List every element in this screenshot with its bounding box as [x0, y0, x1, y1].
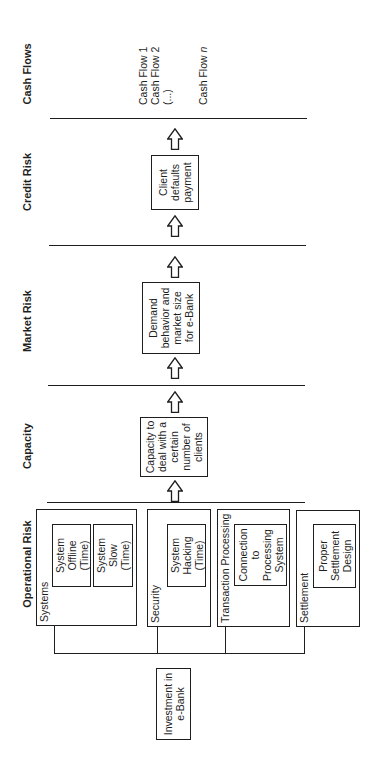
group-label: Systems: [38, 582, 50, 622]
node-line: Demand: [147, 298, 159, 338]
connector-security: [157, 626, 158, 654]
node-line: for e-Bank: [183, 294, 195, 342]
arrow-right-icon: [167, 480, 183, 502]
node-line: (Time): [78, 541, 90, 571]
divider-credit-cashflows: [50, 118, 307, 119]
divider-market-credit: [49, 245, 306, 246]
header-operational-risk: Operational Risk: [21, 520, 34, 607]
cash-flow-item: Cash Flow 1: [137, 47, 149, 105]
cash-flow-item: (...): [161, 47, 173, 105]
connector-systems: [54, 626, 55, 654]
group-settlement: Settlement Proper Settlement Design: [296, 510, 360, 627]
cash-flow-item-last: Cash Flow n: [197, 47, 209, 105]
node-line: e-Bank: [174, 687, 186, 720]
node-line: certain: [168, 431, 180, 463]
node-line: Client: [157, 169, 169, 196]
node-line: payment: [181, 162, 193, 202]
connector-settlement: [304, 626, 305, 654]
node-line: clients: [192, 432, 204, 462]
investment-node: Investment in e-Bank: [156, 668, 191, 740]
node-line: System: [54, 538, 66, 573]
group-label: Security: [149, 585, 161, 623]
node-line: Capacity to: [144, 421, 156, 474]
node-line: System: [169, 538, 181, 573]
header-capacity: Capacity: [21, 423, 34, 469]
node-line: Offline: [66, 540, 78, 570]
node-line: Hacking: [181, 537, 193, 575]
node-system-hacking: System Hacking (Time): [167, 524, 206, 587]
node-line: System: [273, 538, 285, 573]
node-line: Settlement: [329, 531, 341, 581]
node-system-slow: System Slow (Time): [93, 524, 133, 587]
node-settlement-design: Proper Settlement Design: [313, 524, 356, 588]
header-credit-risk: Credit Risk: [21, 153, 34, 211]
node-line: Slow: [107, 544, 119, 567]
node-connection-processing: Connection to Processing System: [234, 524, 287, 586]
group-label: Transaction Processing: [219, 514, 231, 623]
risk-flow-diagram: Operational Risk Capacity Market Risk Cr…: [0, 0, 377, 769]
connector-transaction-processing: [225, 626, 226, 654]
connector-trunk: [54, 653, 304, 654]
divider-operational-capacity: [47, 502, 305, 503]
node-line: (Time): [193, 541, 205, 571]
node-line: behavior and: [159, 288, 171, 349]
group-label: Settlement: [298, 573, 310, 623]
arrow-right-icon: [167, 128, 183, 150]
header-cash-flows: Cash Flows: [21, 43, 34, 104]
node-line: (Time): [119, 541, 131, 571]
node-line: Proper: [317, 540, 329, 572]
node-line: deal with a: [156, 422, 168, 472]
cash-flow-list: Cash Flow 1 Cash Flow 2 (...) Cash Flow …: [137, 47, 209, 105]
header-market-risk: Market Risk: [21, 290, 34, 352]
node-line: to: [249, 551, 261, 560]
credit-node: Client defaults payment: [151, 155, 199, 210]
group-transaction-processing: Transaction Processing Connection to Pro…: [217, 509, 290, 627]
market-node: Demand behavior and market size for e-Ba…: [142, 282, 200, 354]
arrow-right-icon: [167, 256, 183, 278]
capacity-node: Capacity to deal with a certain number o…: [140, 417, 208, 477]
node-line: market size: [171, 291, 183, 345]
cash-flow-prefix: Cash Flow: [197, 55, 209, 105]
node-line: number of: [180, 423, 192, 470]
cash-flow-index: n: [197, 47, 209, 53]
arrow-right-icon: [167, 391, 183, 413]
group-security: Security System Hacking (Time): [147, 509, 211, 627]
arrow-right-icon: [167, 357, 183, 379]
node-line: Processing: [261, 529, 273, 581]
divider-capacity-market: [48, 385, 305, 386]
group-systems: Systems System Offline (Time) System Slo…: [36, 509, 137, 626]
cash-flow-item: Cash Flow 2: [149, 47, 161, 105]
node-line: Design: [341, 540, 353, 573]
node-line: Investment in: [162, 673, 174, 735]
node-line: System: [95, 538, 107, 573]
arrow-right-icon: [167, 215, 183, 237]
node-line: defaults: [169, 164, 181, 201]
node-system-offline: System Offline (Time): [52, 524, 91, 587]
node-line: Connection: [237, 528, 249, 581]
